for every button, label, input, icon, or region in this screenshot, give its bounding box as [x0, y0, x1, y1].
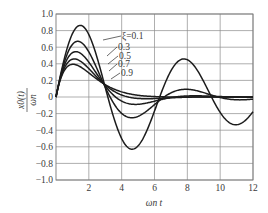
y-tick-label: −0.4	[36, 126, 53, 136]
y-tick-label: 0.2	[41, 76, 53, 86]
y-tick-label: 0	[48, 92, 53, 102]
y-tick-label: 0.8	[41, 26, 53, 36]
y-axis-label-numerator: x0(t)	[16, 91, 27, 110]
y-tick-label: −1.0	[36, 175, 53, 185]
y-tick-label: −0.6	[36, 142, 53, 152]
y-axis-label: x0(t) ωn	[16, 88, 38, 112]
label-leader-line	[108, 56, 118, 64]
x-tick-label: 10	[215, 183, 225, 193]
y-tick-label: −0.2	[36, 109, 53, 119]
x-tick-label: 4	[119, 183, 124, 193]
label-leader-line	[103, 36, 121, 40]
y-tick-label: 0.4	[41, 59, 53, 69]
damping-label: 0.9	[121, 68, 133, 78]
label-leader-line	[107, 47, 117, 56]
x-axis-ticks: 24681012	[86, 183, 258, 193]
y-tick-label: 0.6	[41, 43, 53, 53]
impulse-response-chart: 1.00.80.60.40.20−0.2−0.4−0.6−0.8−1.0 246…	[0, 0, 268, 213]
y-axis-ticks: 1.00.80.60.40.20−0.2−0.4−0.6−0.8−1.0	[36, 9, 53, 185]
damping-labels: ξ=0.10.30.50.70.9	[103, 31, 144, 79]
y-tick-label: 1.0	[41, 9, 53, 19]
damping-label: ξ=0.1	[122, 31, 144, 42]
x-tick-label: 2	[86, 183, 91, 193]
label-leader-line	[109, 64, 117, 71]
label-leader-line	[111, 73, 120, 79]
x-axis-label: ωn t	[146, 198, 163, 208]
x-tick-label: 12	[248, 183, 258, 193]
x-tick-label: 6	[152, 183, 157, 193]
x-tick-label: 8	[185, 183, 190, 193]
y-axis-label-denominator: ωn	[28, 94, 38, 106]
y-tick-label: −0.8	[36, 159, 53, 169]
